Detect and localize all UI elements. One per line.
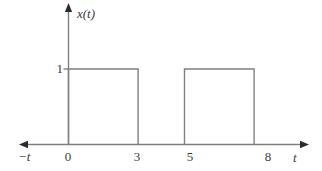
x-axis-left-arrow-icon bbox=[19, 141, 28, 148]
x-tick-label-5: 5 bbox=[180, 150, 200, 163]
x-tick-label-3: 3 bbox=[127, 150, 147, 163]
plot-canvas bbox=[0, 0, 322, 171]
pulse-waveform-second bbox=[185, 69, 255, 145]
x-tick-label-0: 0 bbox=[58, 150, 78, 163]
x-axis-label-positive: t bbox=[293, 151, 297, 164]
x-axis-right-arrow-icon bbox=[300, 141, 309, 148]
y-axis-up-arrow-icon bbox=[65, 3, 72, 12]
x-tick-label-8: 8 bbox=[258, 150, 278, 163]
pulse-waveform-first bbox=[69, 69, 139, 145]
y-axis-label: x(t) bbox=[77, 7, 95, 20]
x-axis-label-negative: −t bbox=[18, 150, 30, 163]
signal-plot-figure: x(t) 1 −t 0 3 5 8 t bbox=[0, 0, 322, 171]
y-tick-label-1: 1 bbox=[53, 62, 63, 75]
